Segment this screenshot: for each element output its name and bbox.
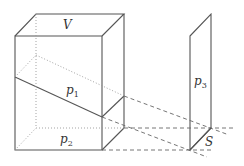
projection-line-lower-diagonal bbox=[102, 117, 207, 157]
label-plane-p3: p3 bbox=[194, 75, 207, 90]
label-volume-v: V bbox=[63, 19, 72, 31]
label-plane-p1: p1 bbox=[66, 84, 79, 99]
projection-line-upper-diagonal bbox=[124, 96, 229, 135]
box-front-face bbox=[15, 36, 102, 150]
box-right-bottom-edge bbox=[102, 128, 124, 150]
plane-p1-side-edge bbox=[102, 96, 124, 117]
label-plane-p2: p2 bbox=[60, 133, 73, 148]
label-p1-base: p bbox=[66, 83, 74, 97]
hidden-plane-p1-left-edge bbox=[15, 55, 36, 77]
label-volume-text: V bbox=[63, 18, 72, 32]
label-p3-base: p bbox=[194, 74, 202, 88]
label-p2-sub: 2 bbox=[68, 139, 73, 148]
label-surface-s: S bbox=[205, 136, 213, 148]
label-p3-sub: 3 bbox=[202, 81, 207, 90]
label-p1-sub: 1 bbox=[74, 90, 79, 99]
plane-p1-front-edge bbox=[15, 77, 102, 117]
label-p2-base: p bbox=[60, 132, 68, 146]
diagram-figure: V p1 p2 p3 S bbox=[0, 0, 244, 166]
label-surface-text: S bbox=[205, 135, 213, 149]
hidden-left-bottom-edge bbox=[15, 128, 36, 150]
hidden-plane-p1-back-edge bbox=[36, 55, 124, 96]
